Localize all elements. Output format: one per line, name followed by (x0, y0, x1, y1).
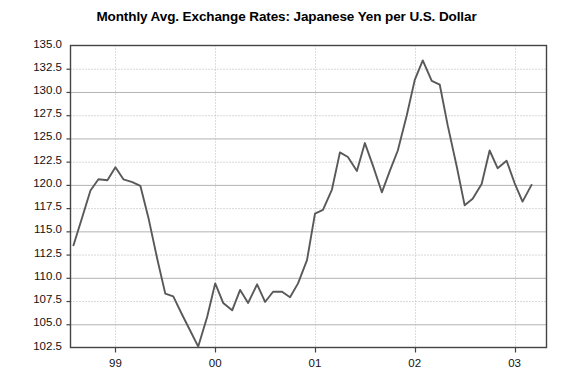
plot-area (0, 0, 573, 380)
y-tick-label: 105.0 (8, 316, 62, 328)
chart-figure: Monthly Avg. Exchange Rates: Japanese Ye… (0, 0, 573, 380)
y-tick-label: 127.5 (8, 107, 62, 119)
y-tick-label: 130.0 (8, 84, 62, 96)
x-tick-label: 01 (295, 357, 335, 369)
y-tick-label: 132.5 (8, 61, 62, 73)
y-tick-label: 112.5 (8, 247, 62, 259)
x-tick-label: 03 (495, 357, 535, 369)
x-tick-label: 00 (195, 357, 235, 369)
y-tick-label: 110.0 (8, 270, 62, 282)
y-tick-label: 135.0 (8, 38, 62, 50)
y-tick-label: 125.0 (8, 130, 62, 142)
data-series-line (73, 60, 531, 346)
y-tick-label: 102.5 (8, 340, 62, 352)
y-tick-label: 122.5 (8, 154, 62, 166)
x-tick-label: 02 (395, 357, 435, 369)
y-tick-label: 120.0 (8, 177, 62, 189)
axis-ticks (67, 69, 516, 352)
y-tick-label: 107.5 (8, 293, 62, 305)
y-tick-label: 117.5 (8, 200, 62, 212)
y-tick-label: 115.0 (8, 223, 62, 235)
x-tick-label: 99 (95, 357, 135, 369)
